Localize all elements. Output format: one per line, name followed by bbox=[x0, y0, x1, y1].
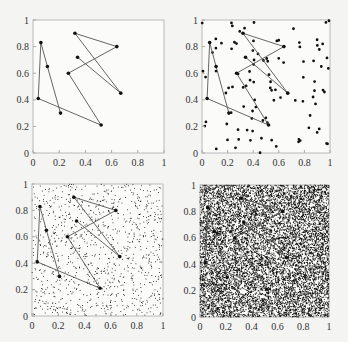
path-point bbox=[244, 55, 248, 59]
y-tick-label: 0 bbox=[191, 312, 196, 323]
path-point bbox=[205, 97, 209, 101]
y-tick-label: 0.2 bbox=[186, 121, 199, 132]
path-point bbox=[235, 71, 239, 75]
plot-panel-bottom-right: 00.20.40.60.8100.20.40.60.81 bbox=[170, 175, 339, 339]
path-point bbox=[115, 45, 119, 49]
path-point bbox=[76, 55, 80, 59]
path-point bbox=[98, 286, 102, 290]
x-tick-label: 0.8 bbox=[132, 157, 145, 168]
path-point bbox=[281, 210, 285, 214]
y-tick-label: 0 bbox=[23, 311, 28, 322]
x-tick-label: 0.4 bbox=[79, 157, 92, 168]
y-tick-label: 1 bbox=[193, 15, 198, 26]
y-tick-label: 0.4 bbox=[186, 94, 199, 105]
y-tick-label: 1 bbox=[24, 15, 29, 26]
y-tick-label: 0 bbox=[24, 148, 29, 159]
y-tick-label: 0.2 bbox=[17, 121, 30, 132]
path-point bbox=[72, 195, 76, 199]
path-point bbox=[67, 71, 71, 75]
path-point bbox=[265, 287, 269, 291]
plot-panel-top-left: 00.20.40.60.8100.20.40.60.81 bbox=[3, 10, 174, 175]
plot-panel-bottom-left: 00.20.40.60.8100.20.40.60.81 bbox=[2, 174, 173, 338]
x-tick-label: 0 bbox=[200, 157, 205, 168]
x-tick-label: 0.2 bbox=[52, 320, 65, 331]
path-point bbox=[38, 205, 42, 209]
path-point bbox=[39, 41, 43, 45]
x-tick-label: 0 bbox=[31, 157, 36, 168]
y-tick-label: 0.8 bbox=[17, 41, 30, 52]
x-tick-label: 0.4 bbox=[245, 321, 258, 332]
path-point bbox=[75, 219, 79, 223]
path-point bbox=[233, 236, 237, 240]
y-tick-label: 1 bbox=[23, 179, 28, 190]
path-point bbox=[118, 255, 122, 259]
x-tick-label: 1 bbox=[327, 321, 332, 332]
path-point bbox=[242, 220, 246, 224]
y-tick-label: 0.2 bbox=[184, 285, 197, 296]
y-tick-label: 0.4 bbox=[17, 94, 30, 105]
x-tick-label: 0.6 bbox=[271, 321, 284, 332]
x-tick-label: 0.8 bbox=[131, 320, 144, 331]
x-tick-label: 0.8 bbox=[297, 321, 310, 332]
x-tick-label: 0.4 bbox=[247, 157, 260, 168]
y-tick-label: 0.8 bbox=[186, 41, 199, 52]
plot-panel-top-right: 00.20.40.60.8100.20.40.60.81 bbox=[172, 10, 340, 175]
x-tick-label: 0 bbox=[198, 321, 203, 332]
path-point bbox=[285, 256, 289, 260]
path-point bbox=[114, 209, 118, 213]
x-tick-label: 0.2 bbox=[221, 157, 234, 168]
path-point bbox=[282, 45, 286, 49]
path-point bbox=[225, 276, 229, 280]
path-point bbox=[208, 41, 212, 45]
path-point bbox=[239, 196, 243, 200]
path-point bbox=[35, 260, 39, 264]
path-point bbox=[73, 32, 77, 36]
y-tick-label: 0.2 bbox=[16, 284, 29, 295]
path-point bbox=[66, 235, 70, 239]
y-tick-label: 0.6 bbox=[184, 232, 197, 243]
x-tick-label: 1 bbox=[328, 157, 333, 168]
x-tick-label: 0.6 bbox=[273, 157, 286, 168]
x-tick-label: 0.8 bbox=[298, 157, 311, 168]
x-tick-label: 1 bbox=[161, 320, 166, 331]
y-tick-label: 0.4 bbox=[184, 259, 197, 270]
path-point bbox=[241, 32, 245, 36]
y-tick-label: 0 bbox=[193, 148, 198, 159]
path-point bbox=[227, 111, 231, 115]
path-point bbox=[36, 97, 40, 101]
y-tick-label: 0.6 bbox=[186, 68, 199, 79]
path-point bbox=[59, 111, 63, 115]
y-tick-label: 0.8 bbox=[16, 205, 29, 216]
y-tick-label: 0.8 bbox=[184, 206, 197, 217]
path-point bbox=[45, 228, 49, 232]
path-point bbox=[214, 65, 218, 69]
path-point bbox=[267, 123, 271, 127]
y-tick-label: 0.6 bbox=[16, 231, 29, 242]
path-point bbox=[286, 91, 290, 95]
x-tick-label: 0.6 bbox=[104, 320, 117, 331]
path-point bbox=[206, 206, 210, 210]
path-point bbox=[203, 261, 207, 265]
x-tick-label: 0.2 bbox=[220, 321, 233, 332]
path-point bbox=[99, 123, 103, 127]
path-point bbox=[46, 65, 50, 69]
y-tick-label: 0.4 bbox=[16, 258, 29, 269]
x-tick-label: 0.2 bbox=[53, 157, 66, 168]
x-tick-label: 0.6 bbox=[105, 157, 118, 168]
path-point bbox=[58, 275, 62, 279]
path-point bbox=[119, 91, 123, 95]
x-tick-label: 0.4 bbox=[78, 320, 91, 331]
y-tick-label: 0.6 bbox=[17, 68, 30, 79]
path-point bbox=[212, 229, 216, 233]
x-tick-label: 1 bbox=[162, 157, 167, 168]
y-tick-label: 1 bbox=[191, 180, 196, 191]
x-tick-label: 0 bbox=[30, 320, 35, 331]
